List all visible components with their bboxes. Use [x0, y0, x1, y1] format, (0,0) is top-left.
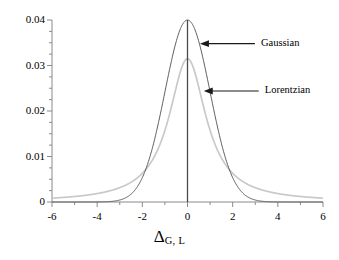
x-axis-title-symbol: Δ — [154, 227, 165, 246]
chart-figure: 00.010.020.030.04 -6-4-20246 GaussianLor… — [0, 0, 339, 260]
annotation-arrow-head-gaussian — [200, 40, 209, 47]
y-tick-label: 0.01 — [26, 151, 45, 162]
x-tick-label: -4 — [77, 211, 117, 222]
y-tick-label: 0 — [40, 196, 46, 207]
y-tick-label: 0.03 — [26, 60, 45, 71]
x-axis-ticks — [52, 202, 323, 207]
x-tick-label: -2 — [122, 211, 162, 222]
x-axis-title: ΔG, L — [0, 228, 339, 247]
annotation-label-gaussian: Gaussian — [261, 38, 300, 49]
x-tick-label: 2 — [213, 211, 253, 222]
annotation-arrow-head-lorentzian — [204, 88, 213, 95]
y-axis-ticks — [47, 20, 52, 202]
x-tick-label: -6 — [32, 211, 72, 222]
x-tick-label: 0 — [168, 211, 208, 222]
x-tick-label: 4 — [258, 211, 298, 222]
y-tick-label: 0.04 — [26, 14, 45, 25]
y-tick-label: 0.02 — [26, 105, 45, 116]
annotation-label-lorentzian: Lorentzian — [265, 85, 310, 96]
x-tick-label: 6 — [303, 211, 339, 222]
x-axis-title-subscript: G, L — [165, 235, 185, 246]
